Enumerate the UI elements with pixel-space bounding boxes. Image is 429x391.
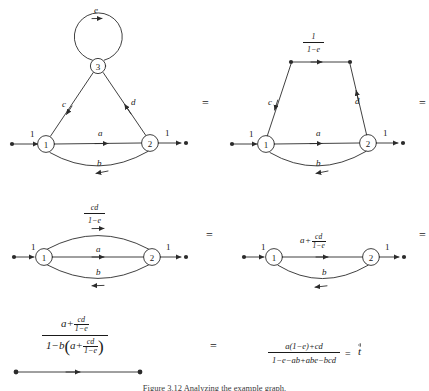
d1-edge-c-label: c xyxy=(62,100,66,109)
final-equals-sign: = xyxy=(345,348,351,359)
d2-top-edge-numerator: 1 xyxy=(303,32,324,43)
d1-input-label: 1 xyxy=(30,130,35,139)
d4-node-2-label: 2 xyxy=(365,253,377,263)
d2-edge-c-label: c xyxy=(268,98,272,107)
d3-sink-dot xyxy=(184,255,188,259)
d2-node-2-label: 2 xyxy=(362,139,374,149)
equals-sign-row2: = xyxy=(206,228,213,243)
d4-input-label: 1 xyxy=(261,243,266,252)
equals-sign-row3: = xyxy=(210,339,217,354)
d4-top-edge-lead: a xyxy=(300,235,305,245)
d2-edge-a-label: a xyxy=(316,129,321,138)
d5-denominator-operator: − xyxy=(52,339,59,351)
equals-sign-row1: = xyxy=(202,96,209,111)
d2-top-edge-fraction: 1 1−e xyxy=(303,32,324,54)
d4-edge-b-arrow xyxy=(315,286,327,287)
d3-edge-b-label: b xyxy=(96,268,101,277)
d5-inner-fraction: cd1−e xyxy=(83,338,98,356)
d5-denominator: 1−b(a+cd1−e) xyxy=(42,336,108,356)
final-expression-numerator: a(1−e)+cd xyxy=(268,341,340,353)
d5-numerator-operator: + xyxy=(66,317,73,329)
d4-top-edge-denominator: 1−e xyxy=(312,242,326,250)
d4-edge-b-label: b xyxy=(322,268,327,277)
d3-edge-a-label: a xyxy=(96,245,101,254)
d5-numerator-fraction: cd1−e xyxy=(74,316,89,334)
d1-edge-c xyxy=(51,73,94,137)
d1-edge-a-label: a xyxy=(98,129,103,138)
d4-sink-dot xyxy=(402,255,406,259)
vector-arrow-icon xyxy=(358,343,361,347)
d2-sink-dot xyxy=(401,141,405,145)
d3-node-1-label: 1 xyxy=(38,253,50,263)
d1-self-loop-e xyxy=(74,13,122,60)
d1-node-2-label: 2 xyxy=(144,139,156,149)
d1-edge-b-label: b xyxy=(97,159,102,168)
figure-canvas: 1 2 3 1 1 a b c d e = = 1 2 1 1 a b c d … xyxy=(0,0,429,391)
d5-numerator-frac-den: 1−e xyxy=(74,325,89,333)
d1-node-3-label: 3 xyxy=(92,62,104,72)
d5-inner-frac-den: 1−e xyxy=(83,347,98,355)
d4-node-1-label: 1 xyxy=(268,253,280,263)
final-expression-fraction: a(1−e)+cd 1−e−ab+abe−bcd xyxy=(268,341,340,365)
equals-sign-row1-right: = xyxy=(419,96,426,111)
d2-node-1-label: 1 xyxy=(260,140,272,150)
d2-edge-b-label: b xyxy=(316,159,321,168)
d1-node-1-label: 1 xyxy=(40,140,52,150)
d3-top-edge-numerator: cd xyxy=(84,203,105,214)
d5-sink-dot xyxy=(138,370,143,375)
d5-edge-expression: a+cd1−e 1−b(a+cd1−e) xyxy=(42,316,108,356)
d2-output-label: 1 xyxy=(383,129,388,138)
d1-edge-d-label: d xyxy=(131,98,136,107)
d3-top-edge-fraction: cd 1−e xyxy=(84,203,105,225)
d1-edge-c-arrow xyxy=(67,106,73,114)
d4-output-label: 1 xyxy=(385,243,390,252)
d2-edge-d-label: d xyxy=(355,97,360,106)
d3-output-label: 1 xyxy=(166,243,171,252)
d5-inner-operator: + xyxy=(76,339,83,351)
d3-input-label: 1 xyxy=(31,243,36,252)
d3-node-2-label: 2 xyxy=(146,253,158,263)
d2-edge-b-arrow xyxy=(316,171,328,173)
d4-top-edge-expression: a+cd1−e xyxy=(300,233,326,250)
d4-top-edge-operator: + xyxy=(305,235,312,245)
final-result-symbol: t xyxy=(358,346,361,357)
d1-sink-dot xyxy=(184,141,188,145)
d5-numerator: a+cd1−e xyxy=(42,316,108,336)
d2-input-label: 1 xyxy=(249,130,254,139)
d1-self-loop-label: e xyxy=(94,6,98,15)
final-expression-denominator: 1−e−ab+abe−bcd xyxy=(268,353,340,365)
d2-top-edge-denominator: 1−e xyxy=(303,43,324,54)
d3-top-edge-denominator: 1−e xyxy=(84,214,105,225)
figure-caption: Figure 3.12 Analyzing the example graph. xyxy=(0,383,429,391)
d1-output-label: 1 xyxy=(165,129,170,138)
equals-sign-row2-right: = xyxy=(419,228,426,243)
result-vector-symbol: t xyxy=(358,346,361,357)
d4-top-edge-fraction: cd1−e xyxy=(312,233,326,250)
d1-edge-b-arrow xyxy=(96,171,108,173)
d5-close-paren: ) xyxy=(98,337,104,356)
